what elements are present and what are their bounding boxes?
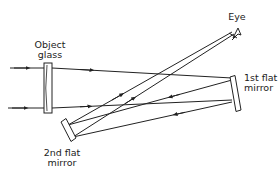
first-flat-mirror (230, 76, 241, 112)
second-flat-mirror-label: 2nd flat mirror (40, 148, 84, 168)
object-glass-label: Object glass (30, 40, 70, 60)
eye-label: Eye (225, 12, 249, 22)
object-glass-lens (44, 63, 52, 113)
eye-arrow-icon (229, 28, 241, 40)
first-flat-mirror-label: 1st flat mirror (244, 73, 280, 93)
telescope-ray-diagram: Object glass Eye 1st flat mirror 2nd fla… (0, 0, 280, 173)
